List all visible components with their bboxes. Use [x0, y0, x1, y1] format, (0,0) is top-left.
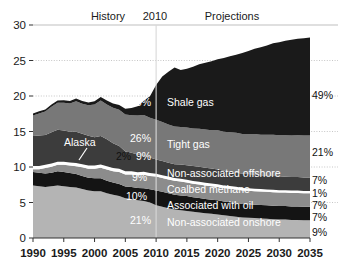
- y-tick-label: 10: [13, 161, 26, 173]
- natural-gas-production-chart: 051015202530 199019952000200520102015202…: [0, 0, 341, 270]
- pct-2035-non-associated-onshore-upper: 7%: [312, 211, 327, 223]
- x-tick-label: 1995: [51, 247, 77, 259]
- divider-year-header: 2010: [143, 10, 167, 22]
- series-label-associated-with-oil: Associated with oil: [167, 199, 253, 211]
- series-label-coalbed-methane: Coalbed methane: [167, 183, 250, 195]
- y-tick-label: 20: [13, 90, 26, 102]
- x-tick-label: 1990: [20, 247, 46, 259]
- alaska-label: Alaska: [64, 136, 96, 148]
- pct-2010-shale-gas: 23%: [130, 96, 151, 108]
- pct-2035-tight-gas: 21%: [312, 146, 333, 158]
- pct-2035-shale-gas: 49%: [312, 89, 333, 101]
- projections-header: Projections: [205, 10, 260, 22]
- y-tick-label: 0: [20, 232, 26, 244]
- x-tick-label: 2035: [297, 247, 323, 259]
- y-tick-label: 30: [13, 19, 26, 31]
- pct-2010-alaska: 2%: [116, 150, 131, 162]
- y-tick-label: 25: [13, 55, 26, 67]
- x-tick-label: 2000: [82, 247, 108, 259]
- pct-2035-non-associated-offshore: 7%: [312, 174, 327, 186]
- x-tick-label: 2010: [143, 247, 169, 259]
- pct-2035-associated-with-oil: 7%: [312, 199, 327, 211]
- series-label-tight-gas: Tight gas: [167, 138, 210, 150]
- chart-canvas: 051015202530 199019952000200520102015202…: [0, 0, 341, 270]
- x-tick-label: 2020: [205, 247, 231, 259]
- y-tick-label: 5: [20, 197, 26, 209]
- series-label-non-associated-onshore: Non-associated onshore: [167, 216, 281, 228]
- x-tick-label: 2015: [174, 247, 200, 259]
- series-label-non-associated-offshore: Non-associated offshore: [167, 167, 281, 179]
- pct-2010-non-associated-offshore: 9%: [136, 150, 151, 162]
- pct-2010-associated-with-oil: 10%: [126, 190, 147, 202]
- history-header: History: [91, 10, 126, 22]
- pct-2010-tight-gas: 26%: [130, 132, 151, 144]
- pct-2035-non-associated-onshore: 9%: [312, 226, 327, 238]
- x-tick-label: 2005: [113, 247, 139, 259]
- pct-2035-coalbed-methane: 1%: [312, 187, 327, 199]
- x-tick-label: 2030: [266, 247, 292, 259]
- pct-2010-coalbed-methane: 9%: [132, 171, 147, 183]
- series-label-shale-gas: Shale gas: [167, 96, 214, 108]
- pct-2010-non-associated-onshore: 21%: [130, 214, 151, 226]
- x-tick-label: 2025: [236, 247, 262, 259]
- y-tick-label: 15: [13, 126, 26, 138]
